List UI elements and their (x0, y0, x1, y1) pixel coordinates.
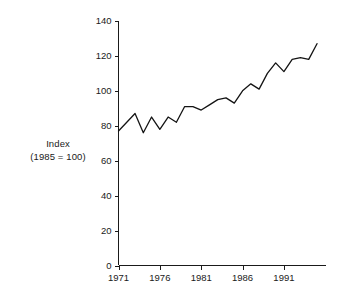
y-tick-label: 120 (96, 50, 112, 61)
x-tick-label: 1981 (191, 272, 212, 283)
x-tick-group: 19711976198119861991 (108, 266, 295, 283)
y-axis: 020406080100120140 (96, 15, 119, 271)
y-tick-label: 100 (96, 85, 112, 96)
y-tick-label: 140 (96, 15, 112, 26)
y-tick-label: 20 (101, 225, 112, 236)
x-tick-label: 1971 (108, 272, 129, 283)
y-tick-label: 40 (101, 190, 112, 201)
y-tick-label: 60 (101, 155, 112, 166)
y-tick-label: 80 (101, 120, 112, 131)
chart-figure: Index (1985 = 100) 020406080100120140 19… (0, 0, 346, 302)
y-tick-label: 0 (106, 260, 111, 271)
data-series-line (119, 44, 318, 133)
chart-plot-area: 020406080100120140 19711976198119861991 (0, 0, 346, 302)
x-tick-label: 1986 (232, 272, 253, 283)
x-tick-label: 1976 (149, 272, 170, 283)
y-tick-group: 020406080100120140 (96, 15, 119, 271)
x-tick-label: 1991 (273, 272, 294, 283)
x-axis: 19711976198119861991 (108, 266, 326, 283)
